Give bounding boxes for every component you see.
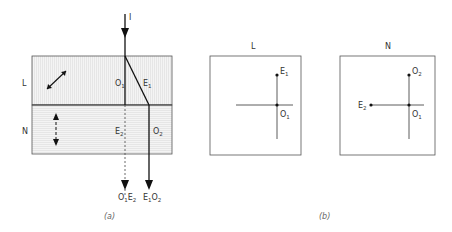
point-e2-label: E2 — [358, 101, 367, 111]
incident-arrow-icon — [121, 28, 129, 38]
point-o1-n-label: O1 — [412, 110, 422, 120]
point-o2-dot — [407, 73, 410, 76]
output-left-label: O1E2 — [118, 193, 136, 203]
output-right-label: E1O2 — [143, 193, 161, 203]
birefringence-diagram: I L N O1 E1 E2 O2 O1E2 E1O2 — [0, 0, 452, 232]
caption-a: (a) — [104, 212, 115, 221]
point-o1-dot — [275, 103, 278, 106]
figure-b-panel-l: L E1 O1 — [210, 42, 301, 155]
layer-n-crystal — [32, 105, 172, 154]
figure-a: I L N O1 E1 E2 O2 O1E2 E1O2 — [22, 13, 172, 221]
figure-b-panel-n: N O2 E2 O1 — [340, 42, 435, 155]
layer-l-crystal — [32, 56, 172, 105]
panel-n-title: N — [385, 42, 391, 51]
layer-l-label: L — [22, 79, 27, 88]
output-arrow-right-icon — [145, 180, 153, 190]
point-e1-dot — [275, 73, 278, 76]
output-arrow-left-icon — [121, 180, 129, 190]
point-e1-label: E1 — [280, 67, 289, 77]
caption-b: (b) — [319, 212, 330, 221]
point-e2-dot — [369, 103, 372, 106]
panel-l-title: L — [251, 42, 256, 51]
incident-label: I — [129, 13, 131, 22]
point-o2-label: O2 — [412, 67, 422, 77]
point-o1-n-dot — [407, 103, 410, 106]
point-o1-label: O1 — [280, 110, 290, 120]
layer-n-label: N — [22, 127, 28, 136]
